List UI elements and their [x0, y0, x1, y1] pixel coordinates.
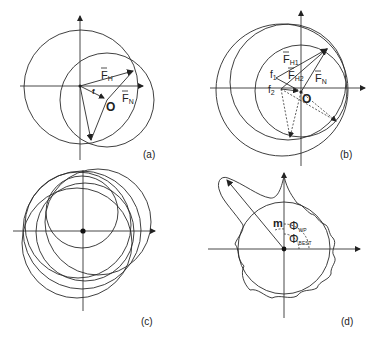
vector-fn-b: [301, 49, 327, 92]
dashed-2-b: [290, 92, 301, 137]
label-fn-a: FN: [122, 92, 134, 105]
figure-canvas: FH FN f O (a) FH1 FH2 FN f1 f2 O (b: [0, 0, 377, 338]
label-m-d: m: [273, 217, 283, 229]
label-fh1-b: FH1: [283, 53, 299, 66]
panel-label-a: (a): [143, 149, 155, 160]
label-f2-b: f2: [268, 84, 275, 96]
vector-f2-b: [281, 89, 298, 91]
label-origin-b: O: [302, 92, 311, 106]
label-phi-best-d: ΦBEST: [289, 232, 312, 246]
panel-a: FH FN f O (a): [20, 16, 155, 160]
circle-c-6: [22, 188, 132, 298]
panel-label-c: (c): [141, 316, 153, 327]
label-origin-a: O: [106, 100, 115, 114]
panel-b: FH1 FH2 FN f1 f2 O (b): [210, 11, 365, 166]
label-phi-wp-d: ΦWP: [289, 219, 307, 233]
label-fn-b: FN: [315, 72, 327, 85]
dashed-1-b: [281, 89, 290, 137]
label-f-a: f: [92, 87, 95, 96]
panel-c: (c): [13, 169, 155, 327]
panel-d: m ΦWP ΦBEST (d): [208, 173, 360, 327]
panel-label-d: (d): [341, 316, 353, 327]
label-f1-b: f1: [270, 69, 277, 81]
panel-label-b: (b): [340, 149, 352, 160]
circle-mid-b: [230, 24, 346, 140]
arc-m-d: [275, 229, 284, 230]
vector-o-down-a: [91, 100, 107, 140]
vector-down-a: [80, 86, 91, 140]
label-fh-a: FH: [101, 69, 113, 82]
circle-c-1: [46, 176, 118, 248]
